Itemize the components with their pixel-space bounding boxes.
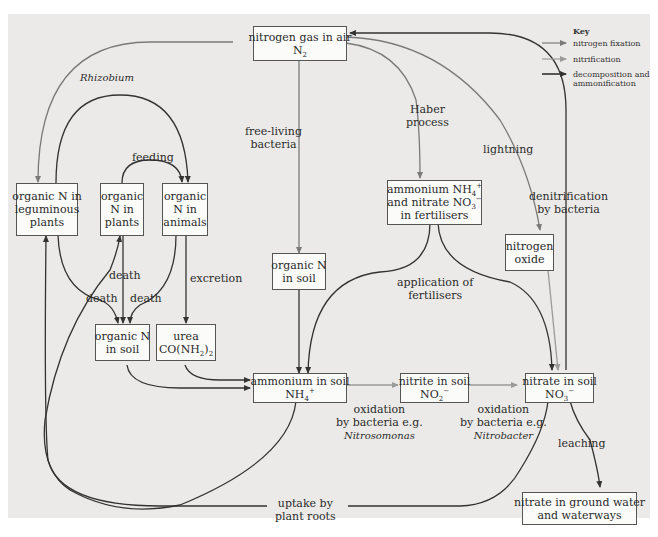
node-fertilisers[interactable]: ammonium NH4+ and nitrate NO3− in fertil… — [387, 180, 482, 225]
label-denitrification: denitrificationby bacteria — [529, 190, 608, 216]
key-item-decomposition: decomposition and ammonification — [573, 70, 650, 88]
label-feeding: feeding — [132, 151, 174, 164]
node-ground-water[interactable]: nitrate in ground water and waterways — [522, 492, 637, 525]
node-nitrate-soil[interactable]: nitrate in soil NO3− — [525, 373, 594, 403]
label-oxidation-nitrosomonas: oxidationby bacteria e.g.Nitrosomonas — [336, 403, 423, 442]
label-rhizobium: Rhizobium — [80, 71, 134, 84]
node-organic-n-animals[interactable]: organic N in animals — [162, 183, 208, 236]
arrow-urea-to-ammonium — [185, 365, 250, 380]
node-organic-n-plants[interactable]: organic N in plants — [100, 183, 144, 236]
label-application-fertilisers: application offertilisers — [397, 276, 473, 302]
node-nitrogen-oxide[interactable]: nitrogen oxide — [505, 234, 554, 271]
arrow-orgsoil-low-to-ammonium — [127, 365, 250, 388]
label-free-living: free-livingbacteria — [245, 125, 302, 151]
node-organic-n-soil-low[interactable]: organic N in soil — [95, 324, 150, 361]
node-organic-n-soil-mid[interactable]: organic N in soil — [272, 253, 326, 290]
label-death-right: death — [130, 292, 162, 305]
node-ammonium-soil[interactable]: ammonium in soil NH4+ — [253, 373, 347, 403]
key-item-fixation: nitrogen fixation — [573, 39, 640, 48]
label-haber-process: Haberprocess — [406, 103, 449, 129]
label-uptake: uptake byplant roots — [275, 497, 336, 523]
label-lightning: lightning — [483, 143, 533, 156]
key-item-nitrification: nitrification — [573, 55, 621, 64]
node-organic-n-leguminous-plants[interactable]: organic N in leguminous plants — [16, 183, 78, 236]
key-title: Key — [573, 27, 590, 36]
label-death-center: death — [109, 269, 141, 282]
arrow-nox-to-nitrate — [548, 270, 558, 370]
node-urea[interactable]: urea CO(NH2)2 — [156, 324, 216, 361]
label-oxidation-nitrobacter: oxidationby bacteria e.g.Nitrobacter — [460, 403, 547, 442]
node-nitrogen-gas[interactable]: nitrogen gas in air N2 — [253, 26, 347, 61]
arrow-legume-to-animals — [56, 95, 188, 183]
node-nitrite-soil[interactable]: nitrite in soil NO2− — [400, 373, 469, 403]
label-leaching: leaching — [558, 437, 605, 450]
label-excretion: excretion — [190, 272, 242, 285]
label-death-left: death — [86, 292, 118, 305]
